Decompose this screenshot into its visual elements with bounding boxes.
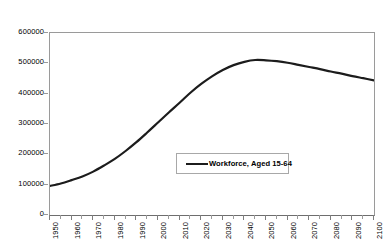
legend-line-swatch <box>186 163 208 165</box>
x-axis-tick-label: 1960 <box>74 222 82 239</box>
x-axis-tick-label: 1950 <box>52 222 60 239</box>
x-axis-tick-label: 2060 <box>290 222 298 239</box>
x-axis-tick-label: 2100 <box>376 222 384 239</box>
x-axis-tick-label: 1990 <box>139 222 147 239</box>
x-axis-tick-label: 2070 <box>311 222 319 239</box>
x-axis-tick-label: 2050 <box>268 222 276 239</box>
x-axis-tick-label: 2010 <box>182 222 190 239</box>
x-axis-tick-label: 2000 <box>160 222 168 239</box>
x-axis-tick-label: 2020 <box>203 222 211 239</box>
chart-legend: Workforce, Aged 15-64 <box>176 153 289 174</box>
x-axis-tick-label: 1970 <box>95 222 103 239</box>
x-axis-tick-label: 1980 <box>117 222 125 239</box>
chart-container: 6000005000004000003000002000001000000 19… <box>0 0 389 250</box>
legend-entry-label: Workforce, Aged 15-64 <box>209 159 292 168</box>
x-axis-tick-label: 2040 <box>247 222 255 239</box>
x-axis-tick-label: 2030 <box>225 222 233 239</box>
x-axis-tick-label: 2080 <box>333 222 341 239</box>
x-axis-tick-label: 2090 <box>355 222 363 239</box>
x-axis-labels: 1950196019701980199020002010202020302040… <box>0 0 389 250</box>
